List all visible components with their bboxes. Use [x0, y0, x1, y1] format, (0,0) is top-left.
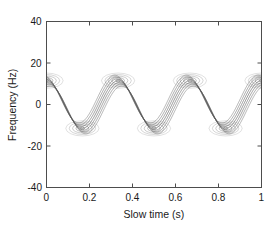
plot-box [47, 22, 262, 188]
y-tick-label: -20 [28, 141, 42, 152]
x-tick-label: 0.2 [83, 192, 97, 203]
y-tick-label: 20 [31, 58, 42, 69]
y-axis-label: Frequency (Hz) [6, 68, 18, 140]
y-tick-label: 40 [31, 16, 42, 27]
y-tick-label: -40 [28, 182, 42, 193]
y-tick-label: 0 [36, 99, 42, 110]
x-tick-label: 0.4 [126, 192, 140, 203]
x-tick-label: 1 [259, 192, 265, 203]
x-tick-label: 0.6 [169, 192, 183, 203]
x-tick-label: 0.8 [212, 192, 226, 203]
x-axis-label: Slow time (s) [124, 208, 185, 220]
figure-container: 00.20.40.60.81 -40-2002040 Slow time (s)… [0, 0, 274, 227]
axes-frame [47, 22, 262, 188]
x-tick-label: 0 [44, 192, 50, 203]
